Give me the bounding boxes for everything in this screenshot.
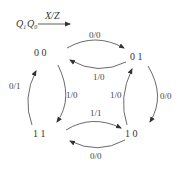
edge-00-11 bbox=[57, 65, 66, 122]
legend-q0: Q0 bbox=[27, 18, 37, 30]
edge-10-01 bbox=[123, 69, 132, 125]
edge-01-00 bbox=[70, 60, 126, 69]
state-11: 1 1 bbox=[33, 128, 46, 139]
edge-label-00-01: 0/0 bbox=[89, 30, 101, 40]
state-10: 1 0 bbox=[125, 128, 138, 139]
state-00: 0 0 bbox=[34, 47, 47, 58]
state-diagram: Q1 Q0 X/Z 0 0 0 1 1 1 1 0 0/0 1/0 1/0 0/… bbox=[0, 0, 183, 169]
state-01: 0 1 bbox=[130, 51, 143, 62]
legend-q1: Q1 bbox=[16, 18, 26, 30]
edge-label-10-01: 1/0 bbox=[110, 90, 122, 100]
edge-00-01 bbox=[67, 40, 124, 48]
edge-01-10 bbox=[148, 66, 158, 122]
edge-11-00 bbox=[28, 71, 36, 125]
edge-10-11 bbox=[70, 140, 125, 148]
edge-11-10 bbox=[66, 121, 121, 130]
edge-label-00-11: 1/0 bbox=[66, 90, 78, 100]
edge-label-01-00: 1/0 bbox=[93, 72, 105, 82]
edge-label-11-10: 1/1 bbox=[90, 108, 102, 118]
legend-io-label: X/Z bbox=[44, 10, 60, 21]
legend: Q1 Q0 X/Z bbox=[16, 10, 70, 30]
edge-label-01-10: 0/0 bbox=[160, 91, 172, 101]
edge-label-10-11: 0/0 bbox=[90, 151, 102, 161]
edge-label-11-00: 0/1 bbox=[9, 81, 21, 91]
